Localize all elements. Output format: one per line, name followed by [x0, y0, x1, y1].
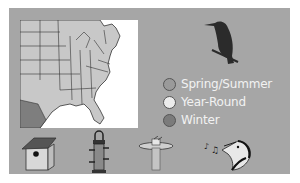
- legend-label: Spring/Summer: [181, 77, 272, 91]
- legend-item-year-round: Year-Round: [163, 94, 272, 110]
- legend-item-winter: Winter: [163, 112, 272, 128]
- legend-item-spring-summer: Spring/Summer: [163, 76, 272, 92]
- birdbath-icon: [136, 136, 176, 174]
- tube-feeder-icon: [86, 130, 112, 176]
- year-round-swatch-icon: [163, 96, 176, 109]
- spring-summer-swatch-icon: [163, 78, 176, 91]
- bird-silhouette-icon: [200, 18, 245, 66]
- season-legend: Spring/Summer Year-Round Winter: [163, 76, 272, 130]
- range-map: [20, 20, 138, 128]
- birdhouse-icon: [20, 136, 60, 172]
- legend-label: Winter: [181, 113, 219, 127]
- singing-bird-icon: ♪ ♫: [202, 136, 254, 174]
- winter-swatch-icon: [163, 114, 176, 127]
- svg-text:♫: ♫: [211, 145, 219, 155]
- legend-label: Year-Round: [181, 95, 246, 109]
- svg-text:♪: ♪: [204, 142, 209, 151]
- us-states-map: [20, 20, 138, 128]
